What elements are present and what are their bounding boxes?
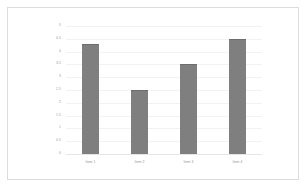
bars-layer: Item 1Item 2Item 3Item 4 xyxy=(66,26,262,154)
bar[interactable] xyxy=(180,64,198,154)
y-axis-tick-label: 4 xyxy=(59,50,61,53)
x-axis-tick-label: Item 4 xyxy=(232,161,242,164)
y-axis-tick-label: 1 xyxy=(59,127,61,130)
y-axis-tick-label: 3 xyxy=(59,75,61,78)
x-axis-tick-label: Item 1 xyxy=(85,161,95,164)
y-axis-tick-label: 2 xyxy=(59,101,61,104)
x-axis-tick-label: Item 2 xyxy=(134,161,144,164)
bar[interactable] xyxy=(229,39,247,154)
y-axis-tick-label: 2.5 xyxy=(56,88,61,91)
plot-area: 00.511.522.533.544.55 Item 1Item 2Item 3… xyxy=(66,26,262,154)
chart-frame: 00.511.522.533.544.55 Item 1Item 2Item 3… xyxy=(7,7,299,180)
y-axis-tick-label: 0 xyxy=(59,152,61,155)
x-axis-tick-label: Item 3 xyxy=(183,161,193,164)
bar-group: Item 2 xyxy=(115,26,164,154)
bar-group: Item 3 xyxy=(164,26,213,154)
y-axis-tick-label: 5 xyxy=(59,24,61,27)
bar[interactable] xyxy=(131,90,149,154)
bar-group: Item 4 xyxy=(213,26,262,154)
y-axis-tick-label: 1.5 xyxy=(56,114,61,117)
gridline xyxy=(66,154,262,155)
y-axis-tick-label: 4.5 xyxy=(56,37,61,40)
bar[interactable] xyxy=(82,44,100,154)
y-axis-tick-label: 0.5 xyxy=(56,139,61,142)
y-axis-tick-label: 3.5 xyxy=(56,63,61,66)
bar-group: Item 1 xyxy=(66,26,115,154)
